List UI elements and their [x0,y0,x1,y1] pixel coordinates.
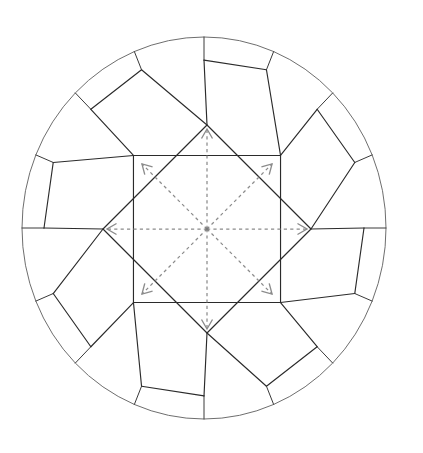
diagram-root: Round brilliant cut diamond facet diagra… [0,0,423,453]
culet-center-dot [205,227,209,231]
diamond-facet-diagram: Round brilliant cut diamond facet diagra… [0,0,423,453]
